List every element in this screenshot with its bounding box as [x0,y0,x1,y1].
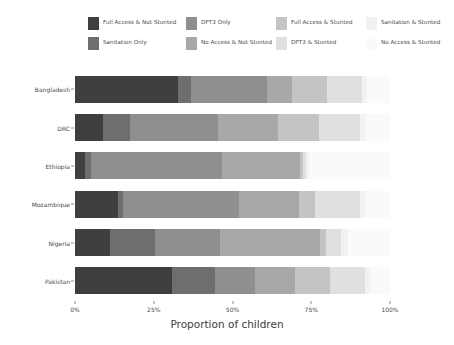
y-axis-tick-mark [71,204,74,205]
y-axis-tick-label: Mozambique [32,201,70,208]
bar-segment[interactable] [299,191,315,218]
bar-segment[interactable] [75,152,85,179]
y-axis-tick-label: Bangladesh [35,86,70,93]
chart-legend: Full Access & Not StuntedSanitation Only… [88,14,436,54]
legend-label: DPT3 & Stunted [291,40,336,46]
bar-segment[interactable] [155,229,220,256]
legend-item[interactable]: Sanitation & Stunted [366,14,448,32]
legend-item[interactable]: No Access & Stunted [366,34,448,52]
legend-label: Full Access & Not Stunted [103,20,176,26]
y-axis-tick-label: Ethiopia [46,162,70,169]
bar-row[interactable] [75,152,390,179]
x-axis-tick-label: 50% [226,306,239,313]
x-axis-tick-mark [153,301,154,304]
y-axis-tick-mark [71,242,74,243]
bar-segment[interactable] [367,76,390,103]
plot-area [75,70,390,300]
legend-swatch-icon [186,37,197,50]
legend-swatch-icon [88,17,99,30]
bar-row[interactable] [75,76,390,103]
bar-segment[interactable] [103,114,130,141]
legend-label: Full Access & Stunted [291,20,352,26]
legend-item[interactable]: DPT3 Only [186,14,276,32]
bar-segment[interactable] [191,76,267,103]
legend-label: Sanitation Only [103,40,147,46]
bar-segment[interactable] [75,267,172,294]
y-axis-tick-label: Nigeria [49,239,70,246]
y-axis-tick-mark [71,89,74,90]
y-axis-tick-mark [71,127,74,128]
bar-segment[interactable] [326,229,341,256]
x-axis-tick-mark [75,301,76,304]
bar-row[interactable] [75,114,390,141]
stacked-bar-chart: Full Access & Not StuntedSanitation Only… [0,0,454,345]
legend-item[interactable]: Full Access & Stunted [276,14,366,32]
y-axis-tick-mark [71,280,74,281]
bar-row[interactable] [75,191,390,218]
bar-segment[interactable] [218,114,278,141]
bar-segment[interactable] [327,76,362,103]
bar-segment[interactable] [348,229,390,256]
y-axis-tick-label: Pakistan [45,277,70,284]
legend-item[interactable]: Full Access & Not Stunted [88,14,186,32]
legend-swatch-icon [366,37,377,50]
bar-row[interactable] [75,267,390,294]
x-axis-tick-mark [311,301,312,304]
legend-swatch-icon [186,17,197,30]
bar-segment[interactable] [222,152,300,179]
bar-segment[interactable] [267,76,292,103]
legend-item[interactable]: DPT3 & Stunted [276,34,366,52]
legend-swatch-icon [276,17,287,30]
bar-segment[interactable] [75,229,110,256]
y-axis-tick-mark [71,165,74,166]
y-axis-tick-label: DRC [57,124,70,131]
bar-segment[interactable] [309,152,390,179]
legend-item[interactable]: No Access & Not Stunted [186,34,276,52]
legend-swatch-icon [366,17,377,30]
bar-segment[interactable] [215,267,255,294]
bar-segment[interactable] [130,114,218,141]
legend-item[interactable]: Sanitation Only [88,34,186,52]
x-axis-tick-mark [390,301,391,304]
x-axis-tick-mark [232,301,233,304]
bar-segment[interactable] [75,191,118,218]
bar-segment[interactable] [295,267,330,294]
bar-segment[interactable] [330,267,365,294]
x-axis-title: Proportion of children [0,318,454,330]
bar-segment[interactable] [178,76,191,103]
legend-label: No Access & Stunted [381,40,440,46]
bar-segment[interactable] [365,191,390,218]
x-axis-tick-label: 25% [147,306,160,313]
bar-segment[interactable] [366,114,390,141]
legend-label: Sanitation & Stunted [381,20,440,26]
x-axis-tick-label: 75% [305,306,318,313]
bar-segment[interactable] [75,76,178,103]
bar-segment[interactable] [239,191,299,218]
bar-segment[interactable] [255,267,295,294]
bar-segment[interactable] [370,267,390,294]
legend-swatch-icon [88,37,99,50]
x-axis-tick-label: 0% [70,306,80,313]
legend-label: DPT3 Only [201,20,231,26]
bar-segment[interactable] [278,114,319,141]
bar-segment[interactable] [110,229,155,256]
bar-segment[interactable] [315,191,360,218]
bar-segment[interactable] [123,191,240,218]
legend-swatch-icon [276,37,287,50]
bar-segment[interactable] [319,114,360,141]
bar-segment[interactable] [220,229,320,256]
bar-segment[interactable] [172,267,215,294]
bar-segment[interactable] [91,152,222,179]
x-axis-tick-label: 100% [381,306,398,313]
bar-segment[interactable] [292,76,327,103]
bar-row[interactable] [75,229,390,256]
legend-label: No Access & Not Stunted [201,40,272,46]
bar-segment[interactable] [75,114,103,141]
